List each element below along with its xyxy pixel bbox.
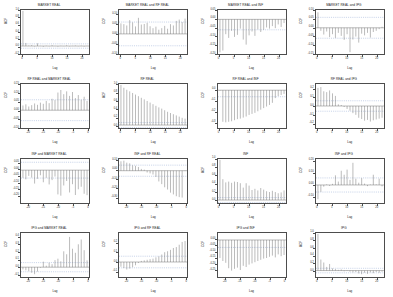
x-tick-mark xyxy=(126,278,127,280)
y-tick-mark xyxy=(18,17,20,18)
plot-svg xyxy=(119,233,187,277)
y-tick-mark xyxy=(215,258,217,259)
y-axis-label: ACF xyxy=(299,241,303,247)
x-tick-mark xyxy=(186,278,187,280)
x-tick-mark xyxy=(332,278,333,280)
x-tick-mark xyxy=(67,55,68,57)
y-tick-mark xyxy=(215,245,217,246)
x-tick-label: -20 xyxy=(219,281,231,284)
plot-svg xyxy=(21,233,89,277)
y-tick-mark xyxy=(116,179,118,180)
x-tick-mark xyxy=(234,204,235,206)
x-axis-label: Lag xyxy=(217,66,287,70)
x-axis-label: Lag xyxy=(315,215,385,219)
x-tick-label: 10 xyxy=(46,58,58,61)
x-tick-mark xyxy=(377,204,378,206)
y-axis-label: CCF xyxy=(102,241,106,247)
x-tick-mark xyxy=(171,204,172,206)
y-tick-mark xyxy=(18,260,20,261)
y-tick-mark xyxy=(313,256,315,257)
panel-title: IPG and MARKET REAL xyxy=(0,226,98,230)
y-tick-mark xyxy=(18,128,20,129)
y-tick-mark xyxy=(116,44,118,45)
x-tick-label: 10 xyxy=(243,207,255,210)
x-tick-label: 10 xyxy=(341,58,353,61)
x-tick-label: 5 xyxy=(228,132,240,135)
plot-svg xyxy=(21,10,89,54)
plot-svg xyxy=(218,84,286,128)
x-tick-mark xyxy=(264,55,265,57)
y-tick-mark xyxy=(313,19,315,20)
y-axis-label: CCF xyxy=(102,166,106,172)
x-tick-label: 10 xyxy=(144,58,156,61)
y-tick-mark xyxy=(116,126,118,127)
x-tick-mark xyxy=(150,129,151,131)
y-axis-label: CCF xyxy=(299,166,303,172)
plot-area xyxy=(217,83,287,129)
panel-title: RF REAL and MARKET REAL xyxy=(0,77,98,81)
x-tick-label: -20 xyxy=(120,281,132,284)
x-tick-label: 5 xyxy=(326,132,338,135)
x-tick-label: -5 xyxy=(67,281,79,284)
x-tick-label: 5 xyxy=(129,58,141,61)
panel-title: IPG and RF REAL xyxy=(98,226,196,230)
x-tick-label: -20 xyxy=(120,207,132,210)
plot-area xyxy=(315,83,385,129)
panel-p01: MARKET REAL and RF REALCCFLag-0.10-0.050… xyxy=(98,0,196,74)
y-tick-mark xyxy=(215,36,217,37)
x-axis-label: Lag xyxy=(315,140,385,144)
x-tick-label: -15 xyxy=(234,281,246,284)
y-tick-mark xyxy=(215,239,217,240)
plot-area xyxy=(20,9,90,55)
x-tick-label: 5 xyxy=(228,207,240,210)
x-tick-mark xyxy=(377,55,378,57)
x-tick-mark xyxy=(347,204,348,206)
x-tick-label: 0 xyxy=(180,281,192,284)
plot-area xyxy=(20,232,90,278)
plot-svg xyxy=(119,84,187,128)
x-tick-label: 0 xyxy=(213,207,225,210)
x-tick-mark xyxy=(234,129,235,131)
y-tick-mark xyxy=(18,84,20,85)
x-tick-mark xyxy=(43,278,44,280)
y-tick-mark xyxy=(18,102,20,103)
x-axis-label: Lag xyxy=(217,215,287,219)
y-tick-mark xyxy=(215,123,217,124)
x-axis-label: Lag xyxy=(217,289,287,293)
x-tick-mark xyxy=(73,204,74,206)
x-tick-mark xyxy=(135,129,136,131)
x-tick-label: 20 xyxy=(174,58,186,61)
panel-title: MARKET REAL xyxy=(0,3,98,7)
x-tick-mark xyxy=(156,278,157,280)
y-tick-mark xyxy=(116,118,118,119)
y-tick-mark xyxy=(116,272,118,273)
x-tick-mark xyxy=(73,129,74,131)
x-axis-label: Lag xyxy=(118,215,188,219)
plot-svg xyxy=(218,10,286,54)
y-tick-mark xyxy=(215,45,217,46)
x-tick-label: 0 xyxy=(114,58,126,61)
y-tick-mark xyxy=(18,275,20,276)
x-tick-mark xyxy=(88,278,89,280)
panel-p30: IPG and MARKET REALCCFLag-0.10.00.10.20.… xyxy=(0,223,98,297)
plot-area xyxy=(118,9,188,55)
x-tick-mark xyxy=(279,129,280,131)
x-tick-mark xyxy=(58,129,59,131)
y-axis-label: CCF xyxy=(201,92,205,98)
panel-title: INF xyxy=(197,152,295,156)
x-tick-mark xyxy=(43,129,44,131)
x-tick-label: 10 xyxy=(341,132,353,135)
plot-area xyxy=(217,232,287,278)
plot-svg xyxy=(119,159,187,203)
y-tick-mark xyxy=(116,54,118,55)
x-tick-label: 0 xyxy=(311,58,323,61)
x-tick-mark xyxy=(165,55,166,57)
y-tick-mark xyxy=(116,160,118,161)
x-tick-mark xyxy=(186,204,187,206)
x-tick-label: -20 xyxy=(22,281,34,284)
x-tick-label: 15 xyxy=(258,207,270,210)
panel-p32: IPG and INFCCFLag-0.25-0.20-0.15-0.10-0.… xyxy=(197,223,295,297)
x-tick-mark xyxy=(317,278,318,280)
x-tick-label: 10 xyxy=(341,207,353,210)
y-tick-mark xyxy=(215,90,217,91)
